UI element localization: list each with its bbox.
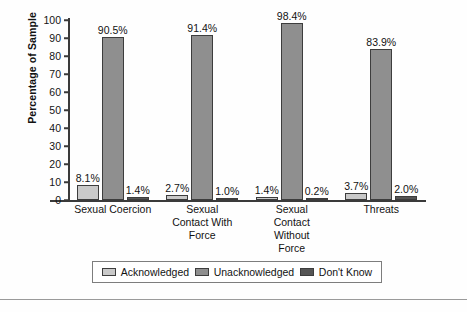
- y-axis-tick-label: 60: [4, 86, 68, 98]
- bar-value-label: 1.4%: [126, 184, 150, 196]
- y-axis-tick-label: 70: [4, 68, 68, 80]
- y-axis-tick-label: 20: [4, 158, 68, 170]
- bar-acknowledged: 1.4%: [256, 197, 278, 200]
- bar-value-label: 2.7%: [165, 182, 189, 194]
- category-label-line: Without: [235, 229, 349, 242]
- bar-value-label: 8.1%: [76, 172, 100, 184]
- bar-unacknowledged: 91.4%: [191, 35, 213, 200]
- bar-value-label: 91.4%: [187, 22, 217, 34]
- bar-value-label: 98.4%: [277, 10, 307, 22]
- bar-acknowledged: 2.7%: [166, 195, 188, 200]
- bar-unacknowledged: 83.9%: [370, 49, 392, 200]
- bar-value-label: 90.5%: [98, 24, 128, 36]
- legend-item: Don't Know: [300, 266, 372, 278]
- bar-don-t-know: 1.0%: [216, 198, 238, 200]
- y-axis-tick-label: 50: [4, 104, 68, 116]
- plot-area: 1009080706050403020100 8.1%90.5%1.4%2.7%…: [68, 20, 426, 200]
- bar-group: 1.4%98.4%0.2%: [247, 20, 337, 200]
- legend-label: Acknowledged: [121, 266, 189, 278]
- bar-group: 2.7%91.4%1.0%: [158, 20, 248, 200]
- y-axis-tick-label: 40: [4, 122, 68, 134]
- legend-swatch: [195, 268, 209, 276]
- y-axis-tick-label: 90: [4, 32, 68, 44]
- bar-chart-figure: Percentage of Sample 1009080706050403020…: [0, 0, 467, 312]
- legend-swatch: [300, 268, 314, 276]
- y-axis-tick-label: 100: [4, 14, 68, 26]
- x-axis-line: [50, 200, 426, 202]
- bar-value-label: 0.2%: [305, 185, 329, 197]
- bar-don-t-know: 2.0%: [395, 196, 417, 200]
- legend-swatch: [102, 268, 116, 276]
- bottom-divider: [0, 299, 467, 300]
- bar-unacknowledged: 90.5%: [102, 37, 124, 200]
- bar-acknowledged: 3.7%: [345, 193, 367, 200]
- y-axis-tick-label: 30: [4, 140, 68, 152]
- bar-group: 8.1%90.5%1.4%: [68, 20, 158, 200]
- category-label-line: Force: [235, 242, 349, 255]
- bar-value-label: 83.9%: [366, 36, 396, 48]
- x-axis-category-label: Threats: [325, 203, 439, 216]
- bar-value-label: 2.0%: [394, 183, 418, 195]
- legend-label: Unacknowledged: [214, 266, 295, 278]
- y-axis-tick-label: 80: [4, 50, 68, 62]
- legend-item: Acknowledged: [102, 266, 189, 278]
- bar-value-label: 1.0%: [215, 185, 239, 197]
- bar-acknowledged: 8.1%: [77, 185, 99, 200]
- category-label-line: Threats: [325, 203, 439, 216]
- bar-value-label: 1.4%: [255, 184, 279, 196]
- legend-item: Unacknowledged: [195, 266, 295, 278]
- y-axis-tick-label: 10: [4, 176, 68, 188]
- category-label-line: Contact: [235, 216, 349, 229]
- bar-group: 3.7%83.9%2.0%: [337, 20, 427, 200]
- chart-legend: AcknowledgedUnacknowledgedDon't Know: [92, 261, 382, 283]
- legend-label: Don't Know: [319, 266, 372, 278]
- bar-unacknowledged: 98.4%: [281, 23, 303, 200]
- bar-value-label: 3.7%: [344, 180, 368, 192]
- bar-don-t-know: 0.2%: [306, 198, 328, 200]
- bar-don-t-know: 1.4%: [127, 197, 149, 200]
